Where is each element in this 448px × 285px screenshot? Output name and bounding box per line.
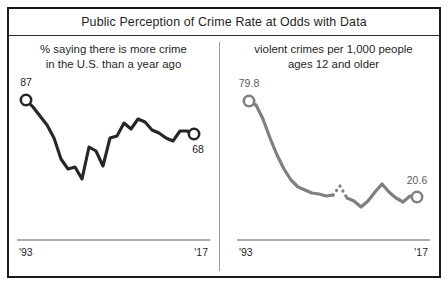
- chart-perception: 87 68 '93 '17: [9, 74, 218, 274]
- perception-end-marker: [189, 129, 199, 139]
- panel-perception-subtitle-line2: in the U.S. than a year ago: [9, 57, 218, 72]
- victimization-end-marker: [412, 192, 422, 202]
- perception-start-marker: [21, 95, 31, 105]
- chart-victimization: 79.8 20.6 '93 '17: [229, 74, 438, 274]
- victimization-line-pre-break: [249, 101, 333, 196]
- perception-line: [26, 100, 194, 179]
- infographic-figure: Public Perception of Crime Rate at Odds …: [0, 0, 448, 285]
- chart-victimization-svg: 79.8 20.6 '93 '17: [229, 74, 438, 274]
- panel-divider: [219, 42, 220, 271]
- page-title: Public Perception of Crime Rate at Odds …: [81, 15, 367, 29]
- perception-end-value: 68: [192, 143, 204, 155]
- victimization-axis-start-label: '93: [239, 246, 253, 258]
- panel-victimization-subtitle-line1: violent crimes per 1,000 people: [254, 43, 412, 55]
- panel-victimization-subtitle-line2: ages 12 and older: [229, 57, 438, 72]
- perception-axis-start-label: '93: [19, 246, 33, 258]
- victimization-axis-end-label: '17: [414, 246, 428, 258]
- panel-perception-subtitle: % saying there is more crime in the U.S.…: [9, 42, 218, 72]
- perception-start-value: 87: [20, 76, 32, 88]
- figure-title-bar: Public Perception of Crime Rate at Odds …: [9, 9, 439, 35]
- victimization-line-break-dotted: [333, 186, 347, 198]
- victimization-start-marker: [244, 96, 254, 106]
- panel-victimization-subtitle: violent crimes per 1,000 people ages 12 …: [229, 42, 438, 72]
- panel-perception-subtitle-line1: % saying there is more crime: [40, 43, 187, 55]
- panel-victimization: violent crimes per 1,000 people ages 12 …: [229, 38, 438, 274]
- victimization-end-value: 20.6: [407, 174, 428, 186]
- victimization-line-post-break: [347, 184, 417, 207]
- perception-axis-end-label: '17: [194, 246, 208, 258]
- panel-perception: % saying there is more crime in the U.S.…: [9, 38, 218, 274]
- victimization-start-value: 79.8: [239, 77, 260, 89]
- title-divider-rule: [9, 35, 439, 36]
- chart-perception-svg: 87 68 '93 '17: [9, 74, 218, 274]
